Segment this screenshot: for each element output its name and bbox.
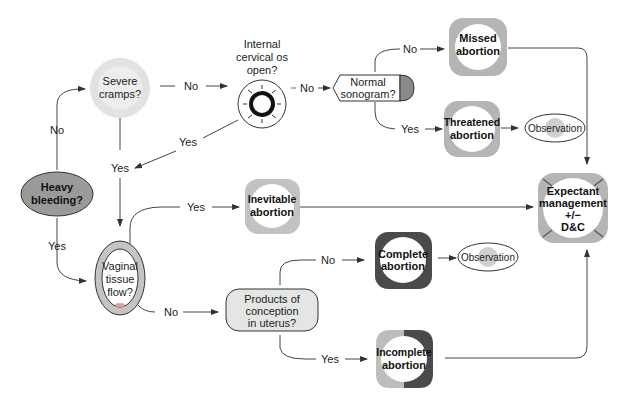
threatened-abortion-line2: abortion (450, 129, 494, 141)
severe-cramps-line1: Severe (103, 75, 138, 87)
observation-2-label: Observation (461, 252, 515, 263)
complete-abortion-line1: Complete (378, 248, 428, 260)
incomplete-abortion-line2: abortion (382, 359, 426, 371)
expectant-line2: management (539, 197, 607, 209)
node-expectant-management: Expectant management +/− D&C (538, 173, 608, 243)
label-os-yes: Yes (179, 136, 197, 148)
label-os-no: No (300, 82, 314, 94)
node-observation-2: Observation (458, 243, 518, 271)
flowchart: No Yes No Yes Yes No No Yes Yes No No Ye… (0, 0, 622, 408)
label-tissue-yes: Yes (187, 201, 205, 213)
node-inevitable-abortion: Inevitable abortion (245, 179, 300, 234)
complete-abortion-line2: abortion (381, 260, 425, 272)
node-heavy-bleeding: Heavy bleeding? (21, 172, 93, 216)
threatened-abortion-line1: Threatened (444, 116, 501, 128)
vaginal-tissue-line3: flow? (107, 286, 133, 298)
node-vaginal-tissue: Vaginal tissue flow? (95, 241, 145, 315)
node-severe-cramps: Severe cramps? (90, 58, 150, 118)
label-tissue-no: No (164, 306, 178, 318)
vaginal-tissue-line1: Vaginal (102, 260, 138, 272)
node-observation-1: Observation (525, 114, 585, 142)
edge-missed-expectant (508, 48, 587, 164)
heavy-bleeding-line1: Heavy (41, 181, 74, 193)
label-cramps-no: No (184, 80, 198, 92)
edge-sono-yes-a (375, 102, 395, 129)
inevitable-abortion-line2: abortion (250, 206, 294, 218)
edge-os-yes-b (135, 151, 176, 168)
node-internal-os: Internal cervical os open? (236, 38, 288, 128)
missed-abortion-line2: abortion (456, 45, 500, 57)
products-line3: in uterus? (248, 317, 296, 329)
internal-os-line2: cervical os (236, 51, 288, 63)
node-complete-abortion: Complete abortion (375, 232, 432, 289)
heavy-bleeding-line2: bleeding? (31, 194, 83, 206)
label-poc-no: No (321, 254, 335, 266)
inevitable-abortion-line1: Inevitable (248, 193, 297, 205)
vaginal-tissue-line2: tissue (106, 273, 135, 285)
internal-os-line3: open? (247, 64, 278, 76)
node-products-conception: Products of conception in uterus? (226, 289, 318, 331)
label-poc-yes: Yes (321, 353, 339, 365)
missed-abortion-line1: Missed (459, 32, 496, 44)
products-line1: Products of (244, 293, 301, 305)
expectant-line4: D&C (561, 221, 585, 233)
products-line2: conception (245, 305, 298, 317)
observation-1-label: Observation (528, 123, 582, 134)
label-cramps-yes: Yes (111, 162, 129, 174)
label-sono-no: No (403, 43, 417, 55)
normal-sonogram-line1: Normal (350, 76, 385, 88)
expectant-line1: Expectant (547, 185, 600, 197)
label-bleeding-yes: Yes (48, 240, 66, 252)
edge-tissue-no-a (138, 305, 155, 312)
node-incomplete-abortion: Incomplete abortion (376, 330, 433, 388)
severe-cramps-line2: cramps? (99, 88, 141, 100)
node-missed-abortion: Missed abortion (449, 18, 507, 76)
label-bleeding-no: No (50, 124, 64, 136)
edge-os-yes-a (203, 120, 238, 138)
label-sono-yes: Yes (401, 123, 419, 135)
edge-poc-no-a (280, 260, 316, 285)
edge-tissue-yes-a (130, 207, 180, 250)
incomplete-abortion-line1: Incomplete (376, 346, 432, 358)
normal-sonogram-line2: sonogram? (340, 88, 395, 100)
expectant-line3: +/− (565, 209, 581, 221)
node-normal-sonogram: Normal sonogram? (333, 75, 414, 101)
internal-os-line1: Internal (244, 38, 281, 50)
node-threatened-abortion: Threatened abortion (444, 101, 501, 157)
edge-sono-no-a (375, 49, 400, 72)
edge-poc-yes-a (280, 335, 316, 359)
